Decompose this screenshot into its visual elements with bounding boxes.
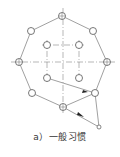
start-point-icon xyxy=(97,125,101,129)
center-lines xyxy=(11,8,115,115)
figure-caption: a）一般习惯 xyxy=(0,130,120,143)
arrow-icon xyxy=(77,112,84,117)
